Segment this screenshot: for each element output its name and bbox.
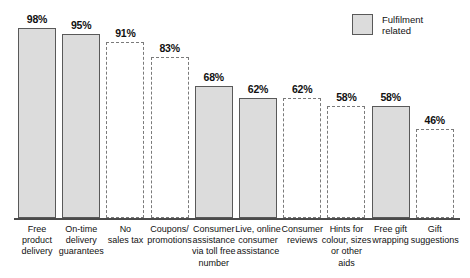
bar-value-label-2: 91% bbox=[100, 27, 150, 39]
category-label-9-line-1: suggestions bbox=[407, 235, 463, 246]
bar-value-label-0: 98% bbox=[12, 13, 62, 25]
bar-7 bbox=[327, 106, 365, 218]
category-label-7-line-2: or other bbox=[318, 246, 374, 257]
bar-value-label-1: 95% bbox=[56, 19, 106, 31]
bar-value-label-6: 62% bbox=[277, 83, 327, 95]
bar-value-label-3: 83% bbox=[145, 42, 195, 54]
legend-label-fulfilment-related: Fulfilment related bbox=[382, 14, 423, 36]
bar-8 bbox=[372, 106, 410, 218]
bar-2 bbox=[106, 42, 144, 218]
bar-chart: 98%95%91%83%68%62%62%58%58%46% Freeprodu… bbox=[0, 0, 470, 278]
bar-3 bbox=[151, 57, 189, 218]
legend-label-line-2: related bbox=[382, 26, 423, 37]
bar-value-label-9: 46% bbox=[410, 114, 460, 126]
x-axis-category-labels: FreeproductdeliveryOn-timedeliveryguaran… bbox=[0, 224, 470, 278]
legend: Fulfilment related bbox=[352, 14, 423, 36]
bar-value-label-5: 62% bbox=[233, 83, 283, 95]
bar-value-label-7: 58% bbox=[321, 91, 371, 103]
category-label-4-line-3: number bbox=[186, 258, 242, 269]
bar-value-label-4: 68% bbox=[189, 71, 239, 83]
bar-9 bbox=[416, 129, 454, 218]
bar-0 bbox=[18, 28, 56, 218]
x-axis-line bbox=[14, 218, 460, 220]
category-label-5-line-2: assistance bbox=[230, 246, 286, 257]
category-label-9-line-0: Gift bbox=[407, 224, 463, 235]
category-label-9: Giftsuggestions bbox=[407, 224, 463, 246]
bar-5 bbox=[239, 98, 277, 218]
bar-6 bbox=[283, 98, 321, 218]
bar-value-label-8: 58% bbox=[366, 91, 416, 103]
legend-swatch-fulfilment-related bbox=[352, 14, 373, 35]
bar-1 bbox=[62, 34, 100, 218]
bar-4 bbox=[195, 86, 233, 218]
category-label-7-line-3: aids bbox=[318, 258, 374, 269]
category-label-1-line-2: guarantees bbox=[53, 246, 109, 257]
legend-label-line-1: Fulfilment bbox=[382, 15, 423, 26]
